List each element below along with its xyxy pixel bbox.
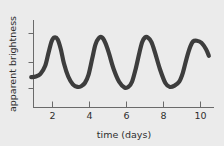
y-axis-title: apparent brightness [7,16,18,112]
x-tick-label-4: 10 [194,110,206,121]
x-tick-label-2: 6 [123,110,129,121]
x-tick-label-3: 8 [160,110,166,121]
x-axis-title: time (days) [97,129,151,140]
x-tick-label-1: 4 [86,110,92,121]
x-tick-label-0: 2 [49,110,55,121]
light-curve-chart: 2 4 6 8 10 time (days) apparent brightne… [0,0,224,146]
light-curve-line [31,37,209,88]
plot-area: 2 4 6 8 10 time (days) apparent brightne… [0,0,224,146]
